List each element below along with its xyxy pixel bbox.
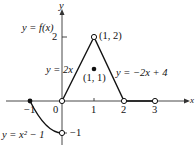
x-tick-label-neg1: −1 [24, 105, 35, 116]
x-tick-label-3: 3 [152, 105, 157, 116]
y-tick-label-2: 2 [52, 32, 57, 43]
peak-point-label: (1, 2) [99, 31, 122, 42]
open-point-2-0 [121, 98, 126, 103]
open-point-origin [59, 98, 64, 103]
isolated-point-1-1 [92, 67, 97, 72]
parabola-label: y = x² − 1 [2, 130, 44, 141]
open-point-peak [91, 34, 96, 39]
closed-point-neg1-0 [28, 99, 33, 104]
open-point-3-0 [152, 98, 157, 103]
y-tick-label-neg1: −1 [70, 128, 81, 139]
x-tick-label-1: 1 [91, 105, 96, 116]
x-axis-label: x [190, 96, 194, 105]
isolated-point-label: (1, 1) [83, 73, 106, 84]
function-title-label: y = f(x) [22, 23, 54, 34]
y-axis-label: y [59, 1, 64, 12]
x-tick-label-0: 0 [53, 105, 58, 116]
falling-line-label: y = −2x + 4 [116, 68, 168, 79]
rising-line-label: y = 2x [46, 65, 73, 76]
x-tick-label-2: 2 [121, 105, 126, 116]
open-point-0-neg1 [59, 130, 64, 135]
